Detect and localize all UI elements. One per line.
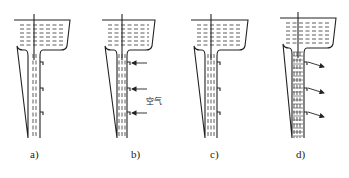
outflow-arrow: [308, 62, 324, 67]
panel-label-b: b): [131, 148, 141, 161]
tank-outline: [280, 18, 336, 138]
tank-outline: [191, 20, 248, 138]
panel-label-d: d): [296, 148, 306, 161]
panel-c: [191, 14, 248, 138]
outflow-arrow: [308, 88, 324, 93]
outflow-arrow: [308, 112, 324, 117]
panel-a: [14, 14, 70, 138]
panel-b: [102, 14, 155, 138]
panel-label-a: a): [30, 148, 39, 161]
flow-diagram: a) b) c) d) 空气: [0, 0, 349, 178]
panel-d: [280, 12, 336, 138]
air-label: 空气: [146, 96, 162, 106]
tank-outline: [102, 20, 155, 138]
tank-outline: [14, 20, 70, 138]
panel-label-c: c): [210, 148, 219, 161]
